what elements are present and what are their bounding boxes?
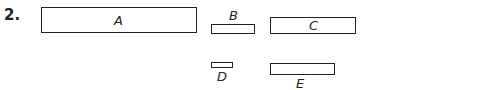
label-a: A (114, 14, 123, 27)
problem-number: 2. (4, 6, 20, 24)
label-e: E (296, 77, 304, 90)
label-d: D (217, 70, 227, 83)
rectangle-d (211, 62, 233, 68)
label-c: C (309, 19, 318, 32)
rectangle-e (270, 63, 335, 75)
rectangle-b (211, 24, 255, 34)
label-b: B (229, 9, 238, 22)
